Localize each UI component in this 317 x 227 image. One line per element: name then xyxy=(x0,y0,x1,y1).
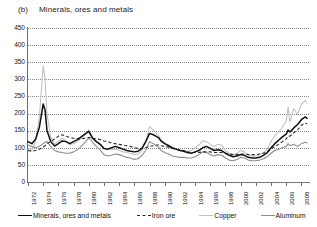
x-axis-tick-label: 1990 xyxy=(167,192,173,205)
series-line-iron-ore xyxy=(28,123,307,154)
legend-item[interactable]: Minerals, ores and metals xyxy=(18,212,111,219)
series-line-copper xyxy=(28,66,307,156)
x-axis-tick-label: 2008 xyxy=(304,192,310,205)
line-swatch-icon xyxy=(261,212,275,219)
x-axis-tick-label: 1998 xyxy=(228,192,234,205)
x-axis-tick-mark xyxy=(225,183,226,186)
series-line-aluminum xyxy=(28,138,307,161)
x-axis-tick-label: 1988 xyxy=(152,192,158,205)
x-axis-tick-label: 1972 xyxy=(31,192,37,205)
x-axis-tick-label: 2006 xyxy=(289,192,295,205)
dashed-line-swatch-icon xyxy=(137,212,151,219)
chart-legend: Minerals, ores and metalsIron oreCopperA… xyxy=(0,207,317,223)
x-axis-tick-label: 1978 xyxy=(76,192,82,205)
x-axis-tick-label: 2002 xyxy=(258,192,264,205)
legend-item[interactable]: Aluminum xyxy=(261,212,306,219)
legend-item[interactable]: Iron ore xyxy=(137,212,175,219)
chart-figure: (b) Minerals, ores and metals 4504003503… xyxy=(0,0,317,227)
line-swatch-icon xyxy=(18,212,32,219)
x-axis-tick-label: 1992 xyxy=(182,192,188,205)
x-axis-tick-mark xyxy=(134,183,135,186)
x-axis-tick-mark xyxy=(256,183,257,186)
x-axis-tick-label: 1974 xyxy=(46,192,52,205)
x-axis-tick-mark xyxy=(28,183,29,186)
x-axis-tick-mark xyxy=(150,183,151,186)
x-axis-tick-mark xyxy=(58,183,59,186)
x-axis-tick-mark xyxy=(43,183,44,186)
x-axis-tick-label: 2004 xyxy=(274,192,280,205)
x-axis-tick-mark xyxy=(74,183,75,186)
x-axis-labels: 1972197419761978198019821984198619881990… xyxy=(0,183,317,209)
x-axis-tick-label: 1982 xyxy=(107,192,113,205)
x-axis-tick-mark xyxy=(195,183,196,186)
x-axis-tick-mark xyxy=(271,183,272,186)
x-axis-tick-mark xyxy=(301,183,302,186)
x-axis-tick-label: 1980 xyxy=(91,192,97,205)
line-swatch-icon xyxy=(199,212,213,219)
x-axis-tick-mark xyxy=(119,183,120,186)
x-axis-tick-label: 1976 xyxy=(61,192,67,205)
x-axis-tick-label: 1986 xyxy=(137,192,143,205)
x-axis-tick-label: 2000 xyxy=(243,192,249,205)
x-axis-tick-mark xyxy=(286,183,287,186)
x-axis-tick-label: 1994 xyxy=(198,192,204,205)
x-axis-tick-mark xyxy=(241,183,242,186)
series-line-minerals xyxy=(28,104,307,158)
legend-item-label: Copper xyxy=(214,212,236,219)
x-axis-tick-mark xyxy=(89,183,90,186)
x-axis-tick-label: 1984 xyxy=(122,192,128,205)
x-axis-tick-mark xyxy=(104,183,105,186)
legend-item-label: Iron ore xyxy=(152,212,175,219)
x-axis-tick-mark xyxy=(180,183,181,186)
x-axis-tick-label: 1996 xyxy=(213,192,219,205)
x-axis-tick-mark xyxy=(210,183,211,186)
legend-item-label: Minerals, ores and metals xyxy=(33,212,111,219)
legend-item-label: Aluminum xyxy=(276,212,306,219)
x-axis-tick-mark xyxy=(165,183,166,186)
legend-item[interactable]: Copper xyxy=(199,212,236,219)
